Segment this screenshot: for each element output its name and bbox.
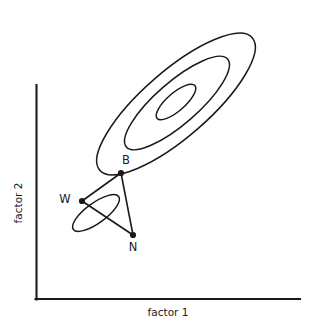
point-label-n: N [129,240,138,254]
axis-label-group: factor 1 factor 2 [12,183,188,318]
factor-scatter-figure: W B N factor 1 factor 2 [0,0,315,326]
point-label-w: W [59,192,70,206]
connector-b-to-n [121,173,133,235]
plot-canvas: W B N factor 1 factor 2 [0,0,315,326]
datapoint-w [79,198,85,204]
inner-contour-ellipse [151,79,201,125]
connector-w-to-b [82,173,121,201]
datapoint-n [130,232,136,238]
axes-group [36,85,301,300]
datapoint-b [118,170,124,176]
connector-group [82,173,133,235]
contour-group [67,13,273,238]
x-axis-label: factor 1 [148,306,189,318]
connector-w-to-n [82,201,133,235]
y-axis-label: factor 2 [12,183,24,224]
small-contour-ellipse [67,188,124,237]
point-label-b: B [122,153,130,167]
outer-contour-ellipse [78,13,274,195]
